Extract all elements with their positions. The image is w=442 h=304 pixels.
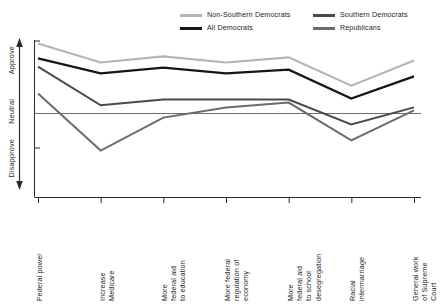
x-axis-label-3: More federal aid to education	[160, 209, 188, 301]
line-chart: Non-Southern Democrats All Democrats Sou…	[0, 0, 442, 304]
x-axis-labels: Federal powerIncrease MedicareMore feder…	[0, 0, 442, 304]
x-axis-label-5: More federal aid to school desegregation	[286, 209, 323, 301]
x-axis-label-2: Increase Medicare	[98, 209, 116, 301]
x-axis-label-7: General work of Supreme Court	[411, 209, 439, 301]
x-axis-label-6: Racial intermarriage	[348, 209, 366, 301]
x-axis-label-1: Federal power	[35, 209, 44, 301]
x-axis-label-4: More federal regulation of economy	[223, 209, 251, 301]
